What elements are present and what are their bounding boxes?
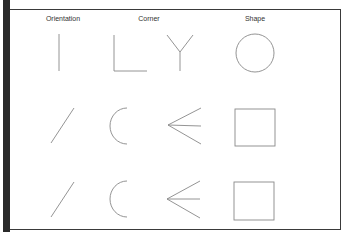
square-shape — [235, 109, 275, 146]
l-corner-shape — [114, 35, 147, 71]
row-1 — [59, 34, 274, 72]
circle-shape — [236, 34, 274, 72]
feature-diagram — [0, 0, 351, 240]
row-3 — [51, 181, 274, 220]
square-shape — [234, 182, 274, 220]
diagonal-line-shape — [51, 108, 74, 143]
arrow-junction-shape — [167, 181, 200, 218]
row-2 — [51, 108, 275, 146]
arc-c-shape — [110, 108, 127, 144]
arc-c-shape — [110, 181, 127, 217]
diagonal-line-shape — [51, 182, 74, 217]
y-junction-shape — [167, 35, 193, 71]
arrow-junction-shape — [168, 108, 201, 144]
